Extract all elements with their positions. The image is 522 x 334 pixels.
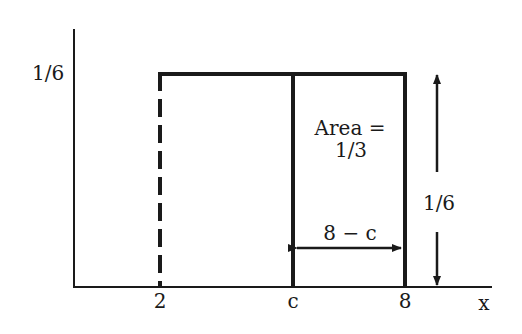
y-tick-label: 1/6 bbox=[32, 61, 64, 85]
x-tick-8: 8 bbox=[399, 289, 412, 313]
uniform-distribution-diagram: 1/6 2 c 8 x Area = 1/3 8 − c 1/6 bbox=[0, 0, 522, 334]
area-label-line2: 1/3 bbox=[335, 138, 367, 162]
width-label: 8 − c bbox=[323, 221, 376, 245]
x-tick-c: c bbox=[287, 289, 298, 313]
area-label-line1: Area = bbox=[314, 116, 386, 140]
height-label: 1/6 bbox=[423, 191, 455, 215]
x-tick-2: 2 bbox=[154, 289, 167, 313]
x-axis-label: x bbox=[478, 291, 490, 315]
